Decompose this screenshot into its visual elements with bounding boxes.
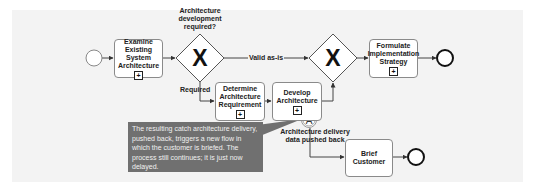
subprocess-expand-icon[interactable]: +: [293, 106, 302, 115]
task-label-line: Develop: [276, 89, 317, 97]
gateway-question-label: Architecture development required?: [172, 7, 228, 31]
task-label-line: Strategy: [368, 58, 420, 66]
task-label-line: System: [117, 54, 160, 62]
task-label-line: Examine Existing: [117, 38, 160, 54]
task-develop-architecture[interactable]: Develop Architecture +: [272, 82, 322, 121]
gateway-architecture-required[interactable]: X: [176, 34, 224, 82]
task-label-line: Architecture: [276, 97, 317, 105]
task-label-line: Formulate: [368, 42, 420, 50]
start-event[interactable]: [86, 50, 102, 66]
end-event-main[interactable]: [437, 50, 453, 66]
task-determine-architecture-requirement[interactable]: Determine Architecture Requirement +: [215, 82, 265, 121]
label-line: required?: [172, 23, 228, 31]
subprocess-expand-icon[interactable]: +: [389, 67, 398, 76]
exclusive-gateway-marker: X: [192, 45, 208, 71]
end-event-brief[interactable]: [408, 149, 424, 165]
task-label: Examine Existing System Architecture: [115, 38, 162, 70]
task-label: Develop Architecture: [274, 89, 319, 105]
gateway-merge[interactable]: X: [309, 34, 357, 82]
task-label: Formulate Implementation Strategy: [366, 42, 422, 66]
label-line: development: [172, 15, 228, 23]
subprocess-expand-icon[interactable]: +: [134, 71, 143, 80]
flow-label-valid-as-is: Valid as-is: [248, 54, 284, 62]
task-examine-existing-system-architecture[interactable]: Examine Existing System Architecture +: [114, 39, 163, 78]
task-label-line: Architecture: [117, 62, 160, 70]
subprocess-expand-icon[interactable]: +: [236, 110, 245, 119]
task-label-line: Architecture: [219, 93, 262, 101]
bpmn-canvas: X X A Examine Existing System Architectu…: [0, 0, 536, 191]
task-label: Brief Customer: [346, 150, 392, 166]
task-brief-customer[interactable]: Brief Customer: [345, 139, 393, 177]
task-label-line: Brief Customer: [348, 150, 390, 166]
flow-label-required: Required: [180, 86, 210, 94]
task-label-line: Determine: [219, 85, 262, 93]
task-label: Determine Architecture Requirement: [217, 85, 264, 109]
task-label-line: Requirement: [219, 101, 262, 109]
boundary-event-label: Architecture delivery data pushed back: [280, 128, 350, 144]
label-line: data pushed back: [280, 136, 350, 144]
task-label-line: Implementation: [368, 50, 420, 58]
annotation-callout: The resulting catch architecture deliver…: [128, 122, 263, 172]
flow-develop-to-gateway2: [322, 83, 333, 101]
task-formulate-implementation-strategy[interactable]: Formulate Implementation Strategy +: [369, 39, 418, 78]
label-line: Architecture delivery: [280, 128, 350, 136]
sequence-flows: X X A: [0, 0, 536, 191]
exclusive-gateway-marker: X: [325, 45, 341, 71]
label-line: Architecture: [172, 7, 228, 15]
